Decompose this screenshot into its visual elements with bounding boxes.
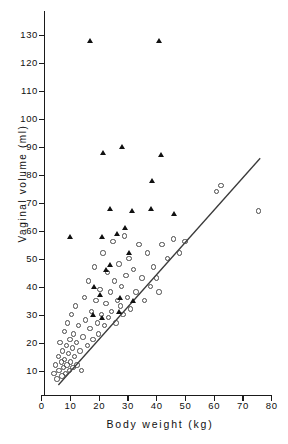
data-point-filled-triangle xyxy=(67,234,73,239)
data-point-open-circle xyxy=(126,256,131,261)
data-point-open-circle xyxy=(95,320,100,325)
data-point-open-circle xyxy=(93,298,98,303)
x-tick-label: 10 xyxy=(57,400,83,411)
data-point-filled-triangle xyxy=(158,152,164,157)
data-point-open-circle xyxy=(60,348,65,353)
y-tick-mark xyxy=(39,259,44,260)
data-point-filled-triangle xyxy=(107,206,113,211)
data-point-open-circle xyxy=(57,340,62,345)
data-point-open-circle xyxy=(67,337,72,342)
data-point-open-circle xyxy=(62,329,67,334)
y-tick-label: 10 xyxy=(0,365,38,377)
data-point-open-circle xyxy=(123,273,128,278)
data-point-filled-triangle xyxy=(119,144,125,149)
data-point-open-circle xyxy=(177,250,182,255)
y-tick-mark xyxy=(39,231,44,232)
y-tick-mark xyxy=(39,203,44,204)
data-point-open-circle xyxy=(136,242,141,247)
data-point-open-circle xyxy=(53,362,58,367)
data-point-open-circle xyxy=(139,275,144,280)
data-point-open-circle xyxy=(85,343,90,348)
x-tick-label: 50 xyxy=(172,400,198,411)
x-tick-label: 60 xyxy=(201,400,227,411)
data-point-open-circle xyxy=(108,289,113,294)
y-tick-mark xyxy=(39,343,44,344)
data-point-filled-triangle xyxy=(107,262,113,267)
data-point-open-circle xyxy=(97,287,102,292)
x-tick-label: 40 xyxy=(144,400,170,411)
data-point-filled-triangle xyxy=(99,315,105,320)
x-tick-label: 0 xyxy=(29,400,55,411)
data-point-open-circle xyxy=(74,362,79,367)
data-point-filled-triangle xyxy=(114,231,120,236)
y-tick-label: 40 xyxy=(0,281,38,293)
data-point-open-circle xyxy=(80,334,85,339)
data-point-filled-triangle xyxy=(91,284,97,289)
y-tick-mark xyxy=(39,287,44,288)
y-tick-label-text: 110 xyxy=(4,85,38,96)
y-tick-label: 130 xyxy=(0,29,38,41)
y-tick-label: 30 xyxy=(0,309,38,321)
data-point-open-circle xyxy=(182,239,187,244)
data-point-filled-triangle xyxy=(129,208,135,213)
x-axis-label: Body weight (kg) xyxy=(44,418,276,430)
y-tick-mark xyxy=(39,147,44,148)
data-point-open-circle xyxy=(113,320,118,325)
y-tick-label-text: 120 xyxy=(4,57,38,68)
data-point-open-circle xyxy=(70,345,75,350)
data-point-open-circle xyxy=(100,250,105,255)
data-point-open-circle xyxy=(171,236,176,241)
data-point-open-circle xyxy=(256,208,261,213)
y-tick-label-text: 20 xyxy=(4,337,38,348)
y-tick-label-text: 30 xyxy=(4,309,38,320)
data-point-filled-triangle xyxy=(171,211,177,216)
y-tick-mark xyxy=(39,35,44,36)
data-point-filled-triangle xyxy=(97,292,103,297)
data-point-open-circle xyxy=(77,348,82,353)
data-point-filled-triangle xyxy=(126,250,132,255)
data-point-filled-triangle xyxy=(156,38,162,43)
data-point-open-circle xyxy=(151,264,156,269)
x-tick-label: 30 xyxy=(115,400,141,411)
data-point-open-circle xyxy=(218,183,223,188)
data-point-open-circle xyxy=(112,278,117,283)
x-tick-label: 70 xyxy=(230,400,256,411)
data-point-open-circle xyxy=(103,301,108,306)
y-tick-label: 120 xyxy=(0,57,38,69)
data-point-open-circle xyxy=(90,337,95,342)
data-point-filled-triangle xyxy=(117,295,123,300)
data-point-filled-triangle xyxy=(103,267,109,272)
data-point-open-circle xyxy=(92,264,97,269)
data-point-filled-triangle xyxy=(90,312,96,317)
data-point-filled-triangle xyxy=(87,38,93,43)
y-axis-line xyxy=(44,11,45,396)
y-tick-label: 110 xyxy=(0,85,38,97)
y-tick-mark xyxy=(39,175,44,176)
y-axis-label: Vaginal volume (ml) xyxy=(17,109,28,259)
y-tick-label-text: 40 xyxy=(4,281,38,292)
data-point-filled-triangle xyxy=(148,206,154,211)
data-point-open-circle xyxy=(116,261,121,266)
data-point-filled-triangle xyxy=(130,298,136,303)
data-point-filled-triangle xyxy=(100,150,106,155)
data-point-filled-triangle xyxy=(116,309,122,314)
data-point-open-circle xyxy=(86,278,91,283)
data-point-open-circle xyxy=(156,289,161,294)
data-point-open-circle xyxy=(74,340,79,345)
y-tick-label: 20 xyxy=(0,337,38,349)
y-tick-label-text: 10 xyxy=(4,365,38,376)
data-point-open-circle xyxy=(71,331,76,336)
y-tick-mark xyxy=(39,371,44,372)
data-point-open-circle xyxy=(122,233,127,238)
data-point-open-circle xyxy=(65,320,70,325)
y-tick-mark xyxy=(39,315,44,316)
data-point-open-circle xyxy=(72,354,77,359)
y-tick-mark xyxy=(39,91,44,92)
data-point-filled-triangle xyxy=(149,178,155,183)
data-point-open-circle xyxy=(87,326,92,331)
data-point-open-circle xyxy=(159,242,164,247)
data-point-open-circle xyxy=(145,250,150,255)
y-tick-label-text: 130 xyxy=(4,29,38,40)
x-tick-label: 20 xyxy=(86,400,112,411)
data-point-filled-triangle xyxy=(122,225,128,230)
